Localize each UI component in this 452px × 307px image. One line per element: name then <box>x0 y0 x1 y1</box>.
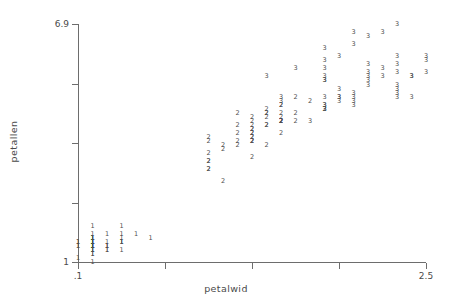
y-tick-label: 6.9 <box>55 19 69 29</box>
data-point: 3 <box>424 57 428 64</box>
data-point: 1 <box>90 235 94 242</box>
data-point: 2 <box>293 109 297 116</box>
data-point: 2 <box>279 118 283 125</box>
y-axis-line <box>78 24 79 263</box>
data-point: 1 <box>90 243 94 250</box>
data-point: 2 <box>250 134 254 141</box>
data-point: 3 <box>409 73 413 80</box>
data-point: 3 <box>380 73 384 80</box>
data-point: 1 <box>119 231 123 238</box>
data-point: 1 <box>90 251 94 258</box>
data-point: 2 <box>279 101 283 108</box>
data-point: 2 <box>279 130 283 137</box>
data-point: 1 <box>90 243 94 250</box>
data-point: 2 <box>235 122 239 129</box>
data-point: 3 <box>322 101 326 108</box>
data-point: 2 <box>235 130 239 137</box>
y-tick-mark <box>72 84 78 85</box>
data-point: 3 <box>322 105 326 112</box>
data-point: 3 <box>322 77 326 84</box>
data-point: 3 <box>395 21 399 28</box>
data-point: 1 <box>119 239 123 246</box>
data-point: 1 <box>90 247 94 254</box>
y-tick-mark <box>72 24 78 25</box>
data-point: 1 <box>90 239 94 246</box>
data-point: 2 <box>206 166 210 173</box>
data-point: 1 <box>90 243 94 250</box>
data-point: 1 <box>119 235 123 242</box>
x-tick-mark <box>78 263 79 269</box>
data-point: 1 <box>90 243 94 250</box>
data-point: 3 <box>380 29 384 36</box>
data-point: 3 <box>322 77 326 84</box>
data-point: 1 <box>90 235 94 242</box>
y-axis-title: petallen <box>8 107 19 177</box>
data-point: 1 <box>105 243 109 250</box>
data-point: 2 <box>235 109 239 116</box>
data-point: 3 <box>337 93 341 100</box>
data-point: 2 <box>264 122 268 129</box>
data-point: 3 <box>366 33 370 40</box>
data-point: 3 <box>366 77 370 84</box>
data-point: 3 <box>322 45 326 52</box>
data-point: 2 <box>250 130 254 137</box>
data-point: 2 <box>279 118 283 125</box>
data-point: 1 <box>105 247 109 254</box>
data-point: 3 <box>366 69 370 76</box>
data-point: 2 <box>264 114 268 121</box>
data-point: 3 <box>351 101 355 108</box>
data-point: 3 <box>395 53 399 60</box>
data-point: 3 <box>409 73 413 80</box>
data-point: 3 <box>351 89 355 96</box>
data-point: 1 <box>90 243 94 250</box>
data-point: 1 <box>105 239 109 246</box>
data-point: 2 <box>250 138 254 145</box>
data-point: 3 <box>279 97 283 104</box>
x-tick-mark <box>426 263 427 269</box>
data-point: 2 <box>235 142 239 149</box>
data-point: 3 <box>366 81 370 88</box>
data-point: 3 <box>380 65 384 72</box>
data-point: 3 <box>395 61 399 68</box>
data-point: 1 <box>148 235 152 242</box>
data-point: 3 <box>351 93 355 100</box>
data-point: 2 <box>293 118 297 125</box>
data-point: 1 <box>105 231 109 238</box>
data-point: 1 <box>90 251 94 258</box>
data-point: 1 <box>90 239 94 246</box>
data-point: 3 <box>395 69 399 76</box>
data-point: 3 <box>337 53 341 60</box>
data-point: 2 <box>250 118 254 125</box>
data-point: 2 <box>235 138 239 145</box>
data-point: 3 <box>293 65 297 72</box>
data-point: 3 <box>322 105 326 112</box>
data-point: 1 <box>90 239 94 246</box>
data-point: 2 <box>250 134 254 141</box>
data-point: 2 <box>250 114 254 121</box>
data-point: 1 <box>90 222 94 229</box>
data-point: 1 <box>119 239 123 246</box>
data-point: 3 <box>395 93 399 100</box>
x-axis-title: petalwid <box>0 283 452 294</box>
data-point: 1 <box>90 247 94 254</box>
data-point: 3 <box>322 65 326 72</box>
data-point: 2 <box>206 150 210 157</box>
data-point: 3 <box>395 81 399 88</box>
data-point: 1 <box>119 239 123 246</box>
data-point: 3 <box>351 97 355 104</box>
data-point: 3 <box>337 85 341 92</box>
data-point: 2 <box>279 114 283 121</box>
data-point: 2 <box>264 109 268 116</box>
data-point: 2 <box>250 138 254 145</box>
data-point: 2 <box>206 138 210 145</box>
x-tick-label: 2.5 <box>406 271 446 281</box>
data-point: 1 <box>90 235 94 242</box>
data-point: 2 <box>279 118 283 125</box>
data-point: 3 <box>337 97 341 104</box>
scatter-plot-figure: 16.9 .12.5 petalwid petallen 11111111111… <box>0 0 452 307</box>
data-point: 1 <box>90 243 94 250</box>
data-point: 1 <box>90 247 94 254</box>
data-point: 3 <box>366 61 370 68</box>
y-tick-mark <box>72 143 78 144</box>
data-point: 1 <box>105 243 109 250</box>
